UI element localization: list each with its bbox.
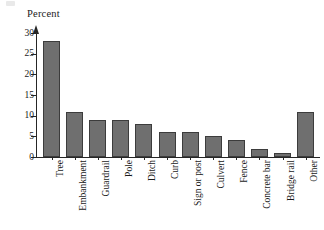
y-tick-label: 10 [25,109,35,121]
y-tick-label: 20 [25,68,35,80]
y-tick-label: 25 [25,47,35,59]
x-tick-label: Pole [121,160,131,177]
y-tick-label: 15 [25,89,35,101]
chart-screenshot: Percent 051015202530 TreeEmbankmentGuard… [0,0,324,230]
bar [205,136,222,157]
bar [228,140,245,157]
scan-artifact [6,1,15,6]
bar [89,120,106,157]
y-tick-label: 5 [29,130,34,142]
x-tick-label: Concrete bar [259,160,269,209]
x-axis-line [36,157,320,158]
x-tick-label: Curb [167,160,177,179]
bar [112,120,129,157]
x-tick-label: Bridge rail [283,160,293,201]
x-tick-label: Embankment [75,160,85,211]
bar [66,112,83,157]
x-tick-label: Fence [236,160,246,183]
y-axis-title: Percent [27,8,60,20]
y-tick-label: 0 [29,151,34,163]
x-tick-label: Other [306,160,316,182]
x-tick-label: Sign or post [190,160,200,206]
y-tick-label: 30 [25,27,35,39]
x-tick-label: Ditch [144,160,154,181]
x-tick-label: Culvert [213,160,223,189]
bar [251,149,268,157]
plot-area: 051015202530 [36,28,320,158]
bar-series [37,28,320,157]
bar [159,132,176,157]
bar [135,124,152,157]
x-axis-labels: TreeEmbankmentGuardrailPoleDitchCurbSign… [36,160,320,230]
x-tick-label: Guardrail [98,160,108,196]
bar [43,41,60,157]
bar [182,132,199,157]
x-tick-label: Tree [52,160,62,177]
bar [297,112,314,157]
